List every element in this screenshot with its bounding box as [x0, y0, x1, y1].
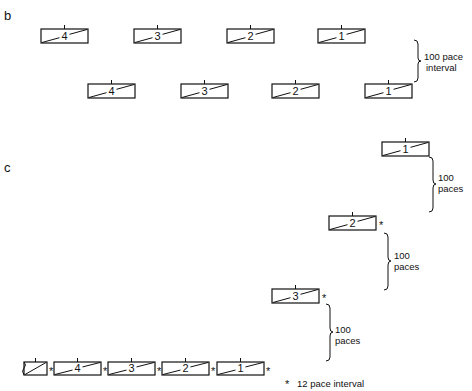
- legend-text: 12 pace interval: [297, 378, 364, 389]
- unit-number: 2: [349, 217, 355, 229]
- panel-c-label: c: [4, 160, 11, 175]
- asterisk-icon: *: [322, 292, 327, 304]
- panel-b-row1-unit-4: 4: [41, 25, 88, 43]
- panel-b-row1-unit-1: 1: [318, 25, 365, 43]
- unit-number: 4: [74, 362, 80, 374]
- panel-b-interval-label-line1: 100 pace: [424, 51, 463, 62]
- panel-c-bottom-unit-partial: [23, 358, 48, 375]
- panel-c-echelon-unit-1: 1: [382, 138, 429, 156]
- asterisk-icon: *: [379, 219, 384, 231]
- unit-number: 2: [292, 85, 298, 97]
- brace-3-label-line2: paces: [335, 335, 361, 346]
- unit-number: 1: [237, 362, 243, 374]
- panel-b-row2-unit-4: 4: [88, 80, 135, 98]
- panel-b-interval-label-line2: interval: [426, 62, 457, 73]
- panel-b-interval-brace: [414, 40, 421, 82]
- panel-c-echelon-unit-3: 3: [272, 285, 319, 303]
- panel-b-row2-unit-3: 3: [181, 80, 228, 98]
- asterisk-icon: *: [103, 365, 108, 377]
- unit-number: 1: [385, 85, 391, 97]
- panel-b-row1-unit-2: 2: [227, 25, 274, 43]
- unit-number: 1: [338, 30, 344, 42]
- panel-b-row2-unit-1: 1: [365, 80, 412, 98]
- panel-c-bottom-unit-1: 1: [217, 358, 264, 375]
- unit-number: 4: [61, 30, 67, 42]
- asterisk-icon: *: [49, 365, 54, 377]
- unit-number: 2: [182, 362, 188, 374]
- panel-c-echelon-unit-2: 2: [329, 212, 376, 230]
- panel-b-row1-unit-3: 3: [134, 25, 181, 43]
- panel-b-row2-unit-2: 2: [272, 80, 319, 98]
- unit-number: 3: [128, 362, 134, 374]
- brace-2-label-line1: 100: [394, 250, 410, 261]
- legend-asterisk-icon: *: [285, 378, 290, 390]
- asterisk-icon: *: [211, 365, 216, 377]
- brace-2-label-line2: paces: [394, 261, 420, 272]
- unit-number: 1: [402, 143, 408, 155]
- brace-1-label-line2: paces: [438, 183, 464, 194]
- brace-3-label-line1: 100: [335, 324, 351, 335]
- panel-c-bottom-unit-3: 3: [108, 358, 155, 375]
- unit-boxes: 4321432112*3**4*3*2*1*: [23, 25, 430, 377]
- unit-number: 4: [108, 85, 114, 97]
- panel-b-label: b: [4, 8, 11, 23]
- asterisk-icon: *: [157, 365, 162, 377]
- brace-1-label-line1: 100: [438, 172, 454, 183]
- panel-c-bottom-unit-2: 2: [162, 358, 209, 375]
- formation-diagram: b c 100 pace interval 100 paces 100 pace…: [0, 0, 472, 391]
- unit-number: 3: [201, 85, 207, 97]
- unit-number: 3: [292, 290, 298, 302]
- panel-c-bottom-unit-4: 4: [54, 358, 101, 375]
- asterisk-icon: *: [266, 365, 271, 377]
- unit-number: 3: [154, 30, 160, 42]
- unit-number: 2: [247, 30, 253, 42]
